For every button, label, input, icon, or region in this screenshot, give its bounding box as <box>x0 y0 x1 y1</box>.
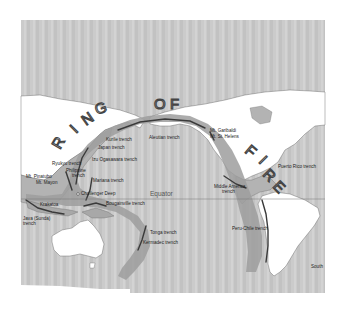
label-mt-pinatubo: Mt. Pinatubo <box>26 174 52 179</box>
label-mt-garibaldi: Mt. Garibaldi <box>210 128 236 133</box>
title-letter-o: O <box>154 95 166 112</box>
label-middle-america-trench-2: trench <box>222 189 235 194</box>
label-peru-chile-trench: Peru-Chile trench <box>232 226 268 231</box>
label-kermadec-trench: Kermadec trench <box>143 240 178 245</box>
ring-of-fire-map: Equator R I N G O F F I R E Kurile trenc… <box>0 0 345 317</box>
label-challenger-deep: Challenger Deep <box>81 191 116 196</box>
label-bougainville-trench: Bougainville trench <box>106 201 145 206</box>
label-philippine-trench-2: trench <box>72 173 85 178</box>
title-letter-f1: F <box>170 95 179 112</box>
label-mt-st-helens: Mt. St. Helens <box>210 134 240 139</box>
label-ryukyu-trench: Ryukyu trench <box>52 161 82 166</box>
equator-label: Equator <box>150 190 174 198</box>
label-java-sunda-2: trench <box>23 221 36 226</box>
label-puerto-rico-trench: Puerto Rico trench <box>278 164 316 169</box>
label-south: South <box>311 264 323 269</box>
label-aleutian-trench: Aleutian trench <box>149 135 180 140</box>
landmass-tasmania <box>90 263 95 268</box>
label-izu-trench: Izu Ogasawara trench <box>92 157 137 162</box>
label-kurile-trench: Kurile trench <box>106 137 132 142</box>
label-mt-mayon: Mt. Mayon <box>36 180 58 185</box>
label-krakatoa: Krakatoa <box>40 202 59 207</box>
label-mariana-trench: Mariana trench <box>93 178 124 183</box>
label-tonga-trench: Tonga trench <box>150 230 177 235</box>
challenger-deep-marker <box>77 193 80 196</box>
label-japan-trench: Japan trench <box>98 145 125 150</box>
